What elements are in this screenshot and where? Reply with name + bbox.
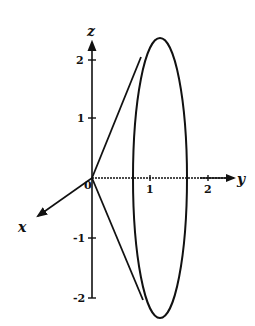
z-tick-label-1: 1: [77, 112, 85, 125]
z-tick-label-neg1: -1: [73, 232, 85, 245]
cone-diagram: z 2 1 -1 -2 y 1 2 x 0: [0, 0, 255, 326]
z-axis-label: z: [86, 23, 96, 39]
y-tick-label-1: 1: [146, 183, 154, 196]
z-tick-label-2: 2: [76, 54, 84, 67]
y-axis-label: y: [236, 171, 246, 187]
origin-label: 0: [84, 179, 92, 192]
z-tick-label-neg2: -2: [73, 292, 85, 305]
x-axis-label: x: [17, 219, 27, 235]
y-axis: [92, 175, 234, 181]
y-tick-label-2: 2: [204, 183, 212, 196]
